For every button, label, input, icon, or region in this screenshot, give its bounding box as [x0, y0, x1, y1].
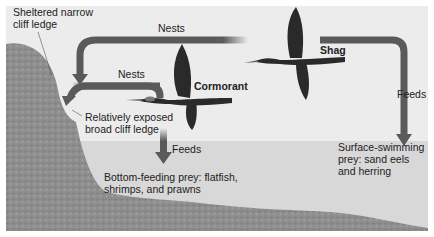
feeds-arrow-cormorant: [160, 128, 167, 154]
diagram: Sheltered narrow cliff ledge Nests Nests…: [0, 0, 434, 237]
sheltered-ledge-label-line2: cliff ledge: [13, 18, 57, 30]
surface-prey-label-line3: and herring: [338, 165, 391, 177]
cormorant-label: Cormorant: [194, 80, 248, 92]
feeds-label-shag: Feeds: [397, 88, 426, 100]
shag-label: Shag: [320, 44, 346, 56]
bottom-prey-label-line1: Bottom-feeding prey: flatfish,: [104, 171, 238, 183]
exposed-ledge-label-line1: Relatively exposed: [85, 111, 173, 123]
sheltered-ledge-label-line1: Sheltered narrow: [13, 6, 93, 18]
nests-label-cormorant: Nests: [118, 68, 145, 80]
diagram-canvas: [0, 0, 434, 237]
nests-label-shag: Nests: [158, 22, 185, 34]
exposed-ledge-label-line2: broad cliff ledge: [85, 123, 159, 135]
feeds-label-cormorant: Feeds: [172, 143, 201, 155]
surface-prey-label-line2: prey: sand eels: [338, 153, 409, 165]
bottom-prey-label-line2: shrimps, and prawns: [104, 183, 201, 195]
surface-prey-label-line1: Surface-swimming: [338, 141, 424, 153]
